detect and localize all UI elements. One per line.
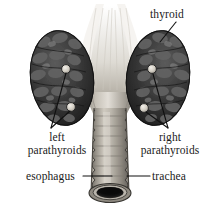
trachea-lumen bbox=[89, 184, 131, 203]
parathyroid-gland bbox=[140, 104, 149, 113]
label-left-parathyroids-line1: left bbox=[13, 131, 101, 144]
label-thyroid: thyroid bbox=[150, 8, 184, 21]
parathyroid-gland bbox=[62, 65, 71, 74]
label-right-parathyroids: right parathyroids bbox=[124, 131, 216, 156]
anatomy-figure: thyroid left parathyroids right parathyr… bbox=[0, 0, 220, 217]
label-esophagus: esophagus bbox=[26, 170, 75, 183]
parathyroid-gland bbox=[67, 103, 76, 112]
label-right-parathyroids-line2: parathyroids bbox=[124, 144, 216, 157]
parathyroid-gland bbox=[148, 65, 157, 74]
anatomy-illustration bbox=[0, 0, 220, 217]
label-left-parathyroids: left parathyroids bbox=[13, 131, 101, 156]
label-trachea: trachea bbox=[152, 170, 186, 183]
label-left-parathyroids-line2: parathyroids bbox=[13, 144, 101, 157]
label-right-parathyroids-line1: right bbox=[124, 131, 216, 144]
trachea-highlight bbox=[103, 112, 111, 190]
